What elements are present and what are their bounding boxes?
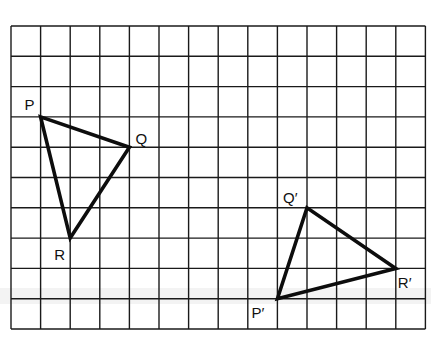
vertex-label: P xyxy=(25,96,35,113)
vertex-label: P′ xyxy=(251,304,264,321)
vertex-label: R xyxy=(54,246,65,263)
vertex-label: R′ xyxy=(398,274,412,291)
vertex-label: Q xyxy=(135,130,147,147)
grid-figure: PQRP′Q′R′ xyxy=(0,0,431,345)
square-grid xyxy=(11,26,425,329)
vertex-label: Q′ xyxy=(283,189,298,206)
